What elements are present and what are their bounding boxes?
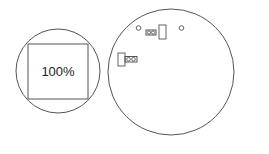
top-connector-pin-1 [147,31,150,34]
left-connector-body [118,53,125,66]
diagram-canvas: 100% [0,0,269,154]
top-connector-pin-2 [151,31,154,34]
right-circle-group [108,9,234,135]
left-connector-pin-2 [132,57,136,61]
right-circle [108,9,234,135]
left-connector-pin-1 [127,57,131,61]
mounting-hole-left [136,26,141,31]
square-label: 100% [41,64,75,79]
mounting-hole-right [179,26,184,31]
top-connector-body [159,25,166,39]
left-circle-group: 100% [16,29,100,113]
top-connector [146,25,166,39]
left-connector [118,53,137,66]
